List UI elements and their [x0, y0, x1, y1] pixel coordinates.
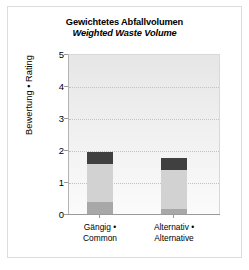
x-tick-mark-alternative [173, 214, 174, 218]
bar-alternative-segment-middle [161, 170, 187, 209]
y-tick-label-0: 0 [44, 209, 64, 220]
bar-common-segment-top [87, 152, 113, 164]
y-axis-tick-labels: 5 4 3 2 1 0 [40, 54, 64, 214]
bar-common[interactable] [87, 152, 113, 214]
chart-title-english: Weighted Waste Volume [0, 28, 249, 39]
gridline-3 [69, 119, 219, 120]
x-axis-label-alternative-line2: Alternative [124, 233, 224, 244]
bar-common-segment-middle [87, 164, 113, 202]
x-axis-line [68, 214, 220, 215]
gridline-4 [69, 87, 219, 88]
y-tick-label-1: 1 [44, 177, 64, 188]
bar-alternative[interactable] [161, 158, 187, 214]
y-tick-label-5: 5 [44, 49, 64, 60]
y-tick-label-3: 3 [44, 113, 64, 124]
x-tick-mark-common [99, 214, 100, 218]
y-tick-label-2: 2 [44, 145, 64, 156]
plot-area [68, 54, 220, 214]
chart-figure: Gewichtetes Abfallvolumen Weighted Waste… [0, 0, 249, 270]
chart-title-block: Gewichtetes Abfallvolumen Weighted Waste… [0, 17, 249, 40]
x-axis-label-alternative-line1: Alternativ • [124, 222, 224, 233]
bar-alternative-segment-top [161, 158, 187, 170]
chart-title-german: Gewichtetes Abfallvolumen [0, 17, 249, 28]
y-tick-label-4: 4 [44, 81, 64, 92]
y-axis-title: Bewertung • Rating [24, 40, 34, 150]
bar-common-segment-bottom [87, 202, 113, 214]
x-axis-label-alternative: Alternativ • Alternative [124, 222, 224, 244]
